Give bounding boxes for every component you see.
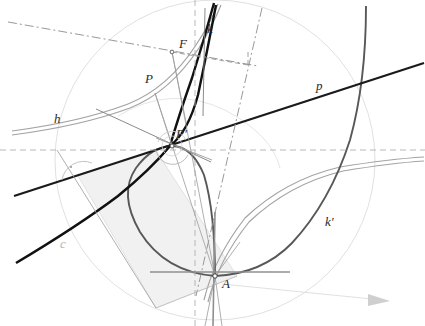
geometry-diagram: k F P p h P' k' c A xyxy=(0,0,425,326)
label-h: h xyxy=(54,111,61,126)
label-p: p xyxy=(315,78,323,93)
label-F: F xyxy=(178,36,188,51)
cusp-point-A xyxy=(213,274,217,278)
label-k-prime: k' xyxy=(325,214,334,229)
focus-point-F xyxy=(170,50,174,54)
point-P-prime xyxy=(170,144,174,148)
label-P-prime: P' xyxy=(175,126,187,141)
geometry-figure-container: k F P p h P' k' c A xyxy=(0,0,425,326)
right-angle-dot-marker xyxy=(70,166,72,168)
label-P: P xyxy=(144,71,153,86)
label-k: k xyxy=(207,21,213,36)
label-c: c xyxy=(60,236,66,251)
label-A: A xyxy=(221,276,230,291)
